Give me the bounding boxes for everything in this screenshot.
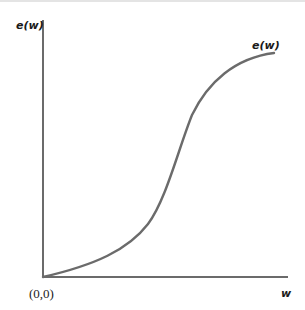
x-axis-label: w bbox=[281, 288, 291, 299]
origin-label: (0,0) bbox=[29, 287, 54, 300]
ew-curve bbox=[43, 53, 274, 277]
y-axis-label: e(w) bbox=[16, 20, 44, 31]
curve-label: e(w) bbox=[252, 40, 280, 51]
